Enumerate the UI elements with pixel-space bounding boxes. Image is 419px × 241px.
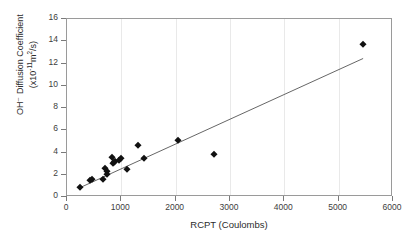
y-tick-label-wrap: 10 [34,80,58,90]
scatter-chart: OH⁻ Diffusion Coefficient (x10-11m2/s) 0… [0,0,419,241]
y-tick-label-wrap: 0 [34,191,58,201]
x-tick-label: 2000 [155,203,195,212]
plot-area [66,18,392,196]
y-tick-label: 4 [36,147,58,156]
y-tick-label-wrap: 4 [34,147,58,157]
x-tick-label: 6000 [372,203,412,212]
y-tick-label: 10 [36,80,58,89]
y-tick-label-wrap: 14 [34,35,58,45]
y-tick-label: 14 [36,35,58,44]
y-tick-label: 6 [36,124,58,133]
x-tick-label: 1000 [100,203,140,212]
trend-line [67,19,393,197]
y-tick-label: 8 [36,102,58,111]
x-axis-title: RCPT (Coulombs) [66,219,392,230]
y-tick-label-wrap: 2 [34,169,58,179]
x-tick-label: 4000 [263,203,303,212]
y-tick-label: 16 [36,13,58,22]
x-tick-label: 3000 [209,203,249,212]
y-axis-title-line1: OH⁻ Diffusion Coefficient [15,14,25,115]
y-tick-label-wrap: 6 [34,124,58,134]
x-tick-label: 5000 [318,203,358,212]
y-tick-label: 12 [36,58,58,67]
y-tick-label-wrap: 8 [34,102,58,112]
y-tick-label-wrap: 16 [34,13,58,23]
x-tick-label: 0 [46,203,86,212]
y-tick-label: 0 [36,191,58,200]
y-tick-label-wrap: 12 [34,58,58,68]
y-tick-label: 2 [36,169,58,178]
